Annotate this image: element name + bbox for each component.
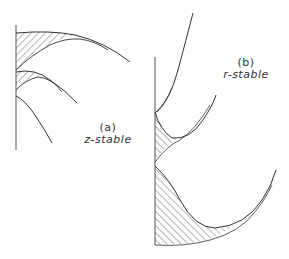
panel-b-caption: r-stable: [216, 69, 276, 81]
panel-a-caption: z-stable: [78, 134, 138, 146]
panel-a-label: (a) z-stable: [78, 122, 138, 146]
panel-b-region-2: [155, 110, 190, 160]
panel-b-curve-1-inner: [155, 88, 172, 113]
panel-b-label: (b) r-stable: [216, 57, 276, 81]
panel-a-region-1: [16, 32, 75, 70]
panel-b-curve-1: [157, 13, 193, 112]
panel-a-curve-3: [16, 96, 52, 143]
panel-b-region-3: [155, 166, 240, 245]
panel-b: [155, 13, 276, 245]
stability-diagram: [0, 0, 289, 259]
